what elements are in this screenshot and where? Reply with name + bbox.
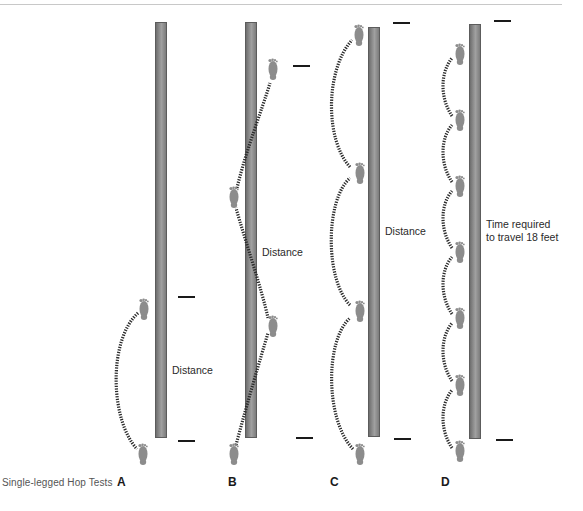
footprint-icon (455, 375, 464, 397)
footprint-icon (355, 301, 364, 323)
footprint-icon (138, 444, 147, 466)
footprint-icon (354, 25, 363, 47)
footprint-icon (139, 299, 148, 321)
footprint-icon (455, 441, 464, 463)
footprints-layer (0, 0, 583, 511)
footprint-icon (455, 44, 464, 66)
footprint-icon (268, 59, 277, 81)
footprint-icon (229, 187, 238, 209)
footprint-icon (455, 308, 464, 330)
footprint-icon (455, 242, 464, 264)
footprint-icon (455, 176, 464, 198)
footprint-icon (355, 163, 364, 185)
footprint-icon (355, 444, 364, 466)
footprint-icon (268, 316, 277, 338)
footprint-icon (229, 444, 238, 466)
footprint-icon (455, 110, 464, 132)
hop-tests-figure: Distance A Distance B Distance C Time re… (0, 0, 583, 511)
